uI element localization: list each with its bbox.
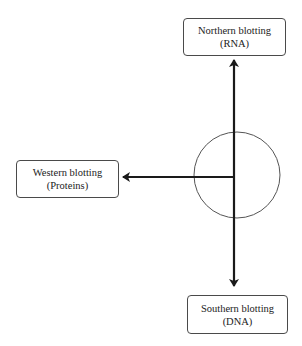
northern-blotting-box: Northern blotting (RNA) — [183, 18, 286, 56]
western-blotting-title: Western blotting — [33, 166, 102, 179]
southern-blotting-title: Southern blotting — [201, 302, 274, 315]
southern-blotting-box: Southern blotting (DNA) — [187, 295, 288, 334]
northern-blotting-title: Northern blotting — [198, 24, 271, 37]
southern-blotting-subtitle: (DNA) — [223, 315, 253, 328]
center-circle — [194, 132, 280, 218]
western-blotting-subtitle: (Proteins) — [47, 179, 88, 192]
western-blotting-box: Western blotting (Proteins) — [16, 160, 119, 198]
northern-blotting-subtitle: (RNA) — [220, 37, 249, 50]
